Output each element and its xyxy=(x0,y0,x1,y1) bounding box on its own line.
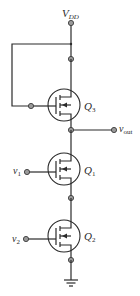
v1-label: v1 xyxy=(13,165,21,178)
q3-label: Q3 xyxy=(84,100,96,114)
q3-gate-node xyxy=(28,103,33,108)
v1-gate-node xyxy=(24,169,29,174)
vout-label: vout xyxy=(119,123,132,136)
vdd-node xyxy=(68,20,73,25)
v2-label: v2 xyxy=(12,233,20,246)
vdd-label: VDD xyxy=(62,7,79,21)
q1-label: Q1 xyxy=(84,164,96,178)
vout-terminal xyxy=(111,127,116,132)
transistor-q2 xyxy=(26,198,80,260)
ground-icon xyxy=(64,260,78,286)
transistor-q3 xyxy=(31,59,80,130)
v2-gate-node xyxy=(23,236,28,241)
transistor-q1 xyxy=(27,130,80,198)
circuit-diagram: VDD Q3 vout xyxy=(0,0,140,296)
q2-label: Q2 xyxy=(84,230,96,244)
